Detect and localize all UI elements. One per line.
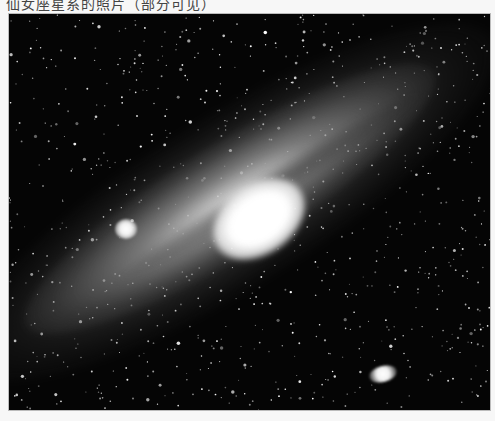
- galaxy-photo: [8, 13, 491, 411]
- image-caption: 仙女座星系的照片（部分可见）: [6, 0, 216, 13]
- satellite-galaxy-upper-left: [115, 219, 137, 239]
